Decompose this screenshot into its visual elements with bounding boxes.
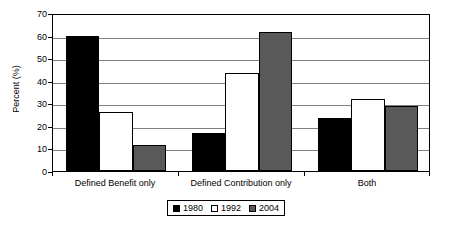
legend-entry: 1992: [211, 203, 241, 213]
bar-chart: Percent (%) 010203040506070 Defined Bene…: [0, 0, 449, 231]
x-axis-tick-mark: [429, 172, 430, 176]
y-axis-tick-label: 60: [22, 32, 47, 41]
legend-label: 1992: [221, 203, 241, 213]
bar: [225, 73, 258, 171]
bars-layer: [53, 15, 429, 171]
y-axis-tick-label: 40: [22, 77, 47, 86]
gray-square-icon: [249, 205, 256, 212]
bar: [318, 118, 351, 171]
bar: [192, 133, 225, 171]
y-axis-tick-label: 70: [22, 10, 47, 19]
x-axis-tick-mark: [178, 172, 179, 176]
x-axis-category-label: Both: [358, 177, 377, 189]
y-axis-tick-label: 0: [22, 168, 47, 177]
chart-legend: 198019922004: [167, 200, 285, 216]
y-axis-tick-label: 30: [22, 100, 47, 109]
y-axis-tick-label: 20: [22, 122, 47, 131]
plot-area: [52, 14, 430, 172]
black-square-icon: [173, 205, 180, 212]
bar: [99, 112, 132, 171]
x-axis-tick-mark: [304, 172, 305, 176]
y-axis-tick-label: 10: [22, 145, 47, 154]
legend-label: 1980: [183, 203, 203, 213]
x-axis-category-label: Defined Benefit only: [75, 177, 156, 189]
x-axis-category-ticks: [52, 172, 430, 176]
legend-label: 2004: [259, 203, 279, 213]
legend-entry: 1980: [173, 203, 203, 213]
bar: [133, 145, 166, 171]
y-axis-title-label: Percent (%): [11, 65, 21, 113]
legend-entry: 2004: [249, 203, 279, 213]
y-axis-tick-labels: 010203040506070: [22, 14, 47, 172]
bar: [259, 32, 292, 171]
bar: [66, 36, 99, 171]
x-axis-category-label: Defined Contribution only: [190, 177, 291, 189]
x-axis-tick-mark: [52, 172, 53, 176]
white-square-icon: [211, 205, 218, 212]
bar: [385, 106, 418, 171]
y-axis-tick-label: 50: [22, 55, 47, 64]
bar: [351, 99, 384, 171]
x-axis-category-labels: Defined Benefit onlyDefined Contribution…: [52, 177, 430, 191]
